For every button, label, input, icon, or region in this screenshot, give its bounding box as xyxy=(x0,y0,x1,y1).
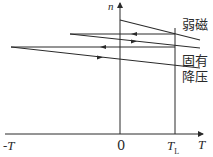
y-axis-label: n xyxy=(108,1,114,12)
arrow-right-icon xyxy=(131,40,137,44)
x-tick-neg-t: -T xyxy=(3,139,15,152)
natural-label: 固有 xyxy=(182,54,208,67)
t-l-subscript: L xyxy=(174,147,179,156)
weak-field-label: 弱磁 xyxy=(182,18,208,31)
reduced-voltage-label: 降压 xyxy=(182,70,208,83)
arrow-right-icon xyxy=(97,56,103,60)
arrow-left-icon xyxy=(100,45,106,49)
x-tick-zero: 0 xyxy=(117,139,125,152)
reduced-voltage-curve xyxy=(11,47,200,68)
x-tick-t-l: TL xyxy=(167,139,179,156)
x-axis-label: T xyxy=(198,138,205,151)
arrow-left-icon xyxy=(131,32,137,36)
